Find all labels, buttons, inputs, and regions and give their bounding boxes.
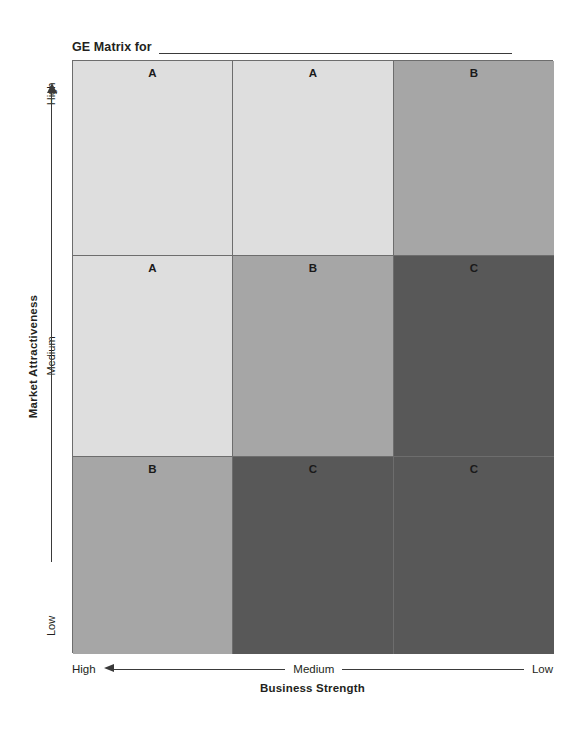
cell-grade-label: B — [73, 463, 232, 476]
y-axis-line — [51, 90, 52, 562]
matrix-cell-high-low[interactable]: B — [394, 61, 554, 256]
ge-matrix-grid: A A B A B C B C C — [72, 60, 553, 653]
y-axis-tick-low: Low — [45, 616, 57, 636]
cell-grade-label: A — [73, 262, 232, 275]
x-axis-tick-high: High — [72, 662, 96, 676]
matrix-cell-high-medium[interactable]: A — [233, 61, 394, 256]
up-arrow-icon — [47, 83, 57, 93]
cell-grade-label: A — [233, 67, 393, 80]
title-blank-line — [159, 41, 512, 54]
cell-grade-label: C — [394, 463, 554, 476]
x-axis-line-right — [342, 669, 524, 670]
matrix-cell-low-medium[interactable]: C — [233, 457, 394, 654]
matrix-cell-medium-low[interactable]: C — [394, 256, 554, 457]
cell-grade-label: C — [394, 262, 554, 275]
x-axis-title: Business Strength — [72, 682, 553, 694]
matrix-cell-high-high[interactable]: A — [73, 61, 233, 256]
x-axis-right-segment — [342, 669, 524, 670]
matrix-cell-medium-high[interactable]: A — [73, 256, 233, 457]
matrix-cell-low-high[interactable]: B — [73, 457, 233, 654]
x-axis-line-left — [114, 669, 286, 670]
x-axis-tick-medium: Medium — [293, 662, 334, 676]
matrix-title-row: GE Matrix for — [72, 32, 512, 54]
x-axis-tick-low: Low — [532, 662, 553, 676]
cell-grade-label: B — [233, 262, 393, 275]
page-title: GE Matrix for — [72, 40, 152, 54]
x-axis-scale: High Medium Low — [72, 660, 553, 678]
left-arrow-icon — [104, 664, 114, 672]
matrix-cell-medium-medium[interactable]: B — [233, 256, 394, 457]
cell-grade-label: A — [73, 67, 232, 80]
matrix-cell-low-low[interactable]: C — [394, 457, 554, 654]
cell-grade-label: B — [394, 67, 554, 80]
cell-grade-label: C — [233, 463, 393, 476]
x-axis-left-segment — [104, 669, 286, 670]
